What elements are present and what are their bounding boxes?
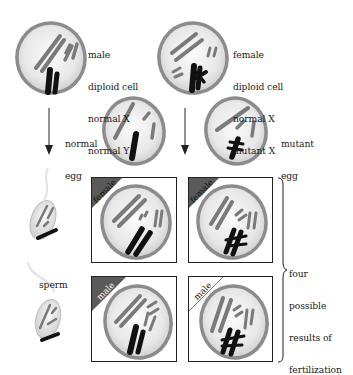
female-parent-cell bbox=[153, 18, 232, 99]
sperm-label: sperm bbox=[39, 259, 68, 301]
results-brace bbox=[278, 178, 287, 362]
results-brace-label: four possible results of fertilization bbox=[289, 248, 342, 375]
mutant-egg-label: mutant egg bbox=[281, 118, 314, 192]
male-parent-cell bbox=[11, 18, 90, 99]
female-parent-label: female diploid cell normal X mutant X bbox=[233, 29, 283, 167]
left-arrow bbox=[45, 108, 53, 155]
normal-egg-label: normal egg bbox=[65, 118, 97, 192]
sperm-x bbox=[25, 168, 60, 243]
right-arrow bbox=[181, 108, 189, 155]
